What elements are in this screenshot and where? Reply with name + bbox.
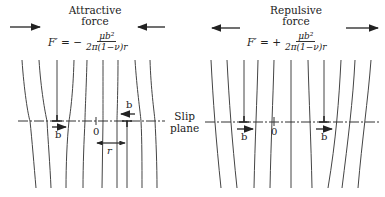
left-formula: F′ = − μb² 2π(1−ν)r [48,31,130,52]
origin-label-left: 0 [93,126,99,137]
left-title: Attractive force [60,5,130,27]
right-formula-numerator: μb² [296,31,315,42]
origin-label-right: 0 [271,126,277,137]
dislocation-symbol-left-2 [122,121,132,127]
dislocation-diagram [0,0,385,197]
slip-plane-label: Slip plane [170,110,199,134]
dislocation-symbol-right-1 [239,116,249,122]
left-formula-fraction: μb² 2π(1−ν)r [84,31,130,52]
burgers-label-left-1: b [55,129,61,140]
right-formula: F′ = + μb² 2π(1−ν)r [247,31,329,52]
burgers-label-left-2: b [126,99,132,110]
right-formula-denominator: 2π(1−ν)r [283,42,329,52]
dislocation-symbol-left-1 [52,115,62,121]
burgers-label-right-2: b [321,131,327,142]
distance-label-r: r [107,145,112,156]
lattice-lines-right [211,60,371,188]
slip-plane-label-line1: Slip [170,110,199,122]
lattice-lines-left [22,60,157,188]
left-formula-lhs: F′ = − [48,36,82,48]
right-title: Repulsive force [256,5,336,27]
dislocation-symbol-right-2 [319,116,329,122]
left-formula-numerator: μb² [97,31,116,42]
slip-plane-label-line2: plane [170,122,199,134]
left-formula-denominator: 2π(1−ν)r [84,42,130,52]
left-title-line2: force [60,16,130,27]
right-title-line2: force [256,16,336,27]
burgers-label-right-1: b [241,131,247,142]
right-formula-fraction: μb² 2π(1−ν)r [283,31,329,52]
right-formula-lhs: F′ = + [247,36,281,48]
